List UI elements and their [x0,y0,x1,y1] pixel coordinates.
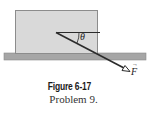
figure-caption-subtitle: Problem 9. [0,93,147,105]
angle-theta-label: θ [80,31,85,42]
ground-surface [4,53,146,60]
force-label: F [131,66,137,77]
physics-figure: θ → F Figure 6-17 Problem 9. [0,0,149,124]
figure-caption-title: Figure 6-17 [10,81,128,92]
block-diagram [0,0,149,124]
force-arrowhead-icon [122,66,130,72]
